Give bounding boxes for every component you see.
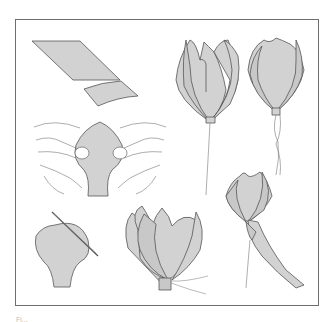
flower-making-illustration <box>0 0 335 322</box>
gather-petal-figure <box>35 212 98 287</box>
assemble-petals-figure <box>126 206 208 294</box>
wrap-stem-figure <box>226 172 304 288</box>
cut-strip-figure <box>32 41 138 106</box>
figure-caption: Fi... <box>16 316 28 322</box>
closed-flower-wire-figure <box>248 38 304 175</box>
open-flower-wire-figure <box>176 40 239 195</box>
stretch-petal-figure <box>34 122 166 196</box>
